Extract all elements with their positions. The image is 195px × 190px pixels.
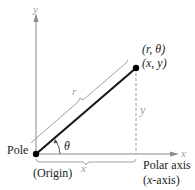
x-segment-label: x [81, 163, 86, 174]
polar-coordinate-diagram: y x (r, θ) (x, y) r y x θ Pole (Origin) … [0, 0, 195, 190]
radius-line [36, 68, 136, 154]
polar-axis-alt-label: (x-axis) [143, 174, 180, 186]
origin-label: (Origin) [33, 167, 72, 179]
r-brace [31, 60, 128, 143]
y-axis-label: y [33, 4, 38, 15]
x-brace [36, 159, 136, 165]
pole-label: Pole [7, 144, 28, 156]
rect-point-label: (x, y) [142, 57, 167, 69]
r-segment-label: r [72, 86, 76, 97]
polar-point [133, 65, 139, 71]
polar-axis-label: Polar axis [143, 159, 191, 171]
y-segment-label: y [140, 104, 145, 116]
x-axis-arrow-icon [170, 152, 179, 157]
theta-label: θ [64, 140, 70, 152]
x-italic: x [147, 173, 152, 187]
theta-arc [56, 141, 60, 154]
polar-point-label: (r, θ) [142, 43, 165, 55]
origin-point [33, 151, 39, 157]
